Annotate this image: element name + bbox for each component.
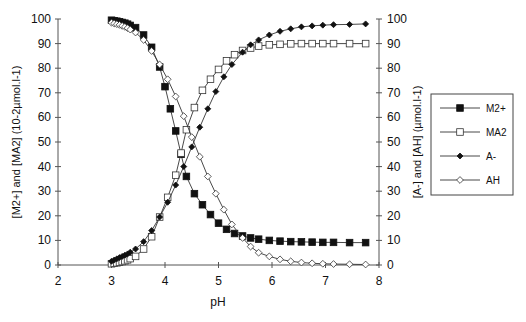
open-diamond-marker [266,253,273,260]
filled-square-marker [277,238,284,245]
filled-square-marker [199,201,206,208]
filled-square-marker [183,173,190,180]
open-square-marker [287,41,294,48]
filled-diamond-marker [197,124,203,130]
filled-diamond-marker [277,28,283,34]
y-tick-label-left: 10 [38,233,52,247]
filled-diamond-marker [256,37,262,43]
series-line [112,20,366,242]
y-tick-label-left: 30 [38,184,52,198]
open-square-marker [215,66,222,73]
filled-square-marker [215,220,222,227]
filled-diamond-marker [309,23,315,29]
filled-square-marker [298,239,305,246]
open-diamond-marker [220,206,227,213]
y-tick-label-right: 60 [387,110,401,124]
filled-diamond-marker [320,22,326,28]
filled-diamond-marker [331,22,337,28]
open-square-marker [132,253,139,260]
filled-square-marker [162,83,169,90]
y-tick-label-left: 80 [38,61,52,75]
open-diamond-marker [164,76,171,83]
x-axis-label: pH [210,295,225,309]
series-layer [108,17,369,268]
filled-square-marker [346,239,353,246]
open-diamond-marker [188,134,195,141]
filled-diamond-marker [213,89,219,95]
open-diamond-marker [212,190,219,197]
open-diamond-marker [362,261,369,268]
open-diamond-marker [287,258,294,265]
y-tick-label-right: 10 [387,233,401,247]
open-diamond-marker [172,93,179,100]
filled-square-marker [330,239,337,246]
y-tick-label-left: 100 [31,12,51,26]
legend-label: AH [486,175,500,186]
open-square-marker [266,42,273,49]
y-tick-label-left: 0 [44,258,51,272]
open-square-marker [309,40,316,47]
filled-diamond-marker [363,21,369,27]
y-tick-label-right: 40 [387,160,401,174]
open-square-marker [172,172,179,179]
filled-square-marker [191,190,198,197]
filled-diamond-marker [221,74,227,80]
open-square-marker [362,40,369,47]
legend-label: A- [486,151,496,162]
filled-square-marker [309,239,316,246]
filled-diamond-marker [181,164,187,170]
x-tick-label: 8 [376,274,383,288]
filled-square-marker [207,211,214,218]
y-tick-label-left: 60 [38,110,52,124]
open-diamond-marker [204,173,211,180]
filled-square-marker [172,128,179,135]
filled-diamond-marker [189,144,195,150]
filled-diamond-marker [347,21,353,27]
open-diamond-marker [330,261,337,268]
filled-square-marker [255,236,262,243]
filled-diamond-marker [298,24,304,30]
y-tick-label-left: 90 [38,37,52,51]
titration-chart: 2345678010203040506070809010001020304050… [0,0,526,322]
x-tick-label: 7 [322,274,329,288]
y-tick-label-left: 20 [38,209,52,223]
open-square-marker [178,150,185,157]
open-square-marker [191,104,198,111]
series-line [112,24,366,261]
open-diamond-marker [309,260,316,267]
series-a- [109,21,369,264]
series-line [112,23,366,265]
open-square-marker [231,51,238,58]
legend-label: M2+ [486,103,506,114]
y-tick-label-right: 90 [387,37,401,51]
x-tick-label: 6 [269,274,276,288]
legend: M2+MA2A-AH [431,94,513,195]
open-square-marker [298,40,305,47]
open-diamond-marker [196,153,203,160]
filled-square-marker [247,235,254,242]
filled-square-marker [266,237,273,244]
filled-square-marker [167,105,174,112]
filled-square-marker [457,105,464,112]
open-square-marker [207,76,214,83]
y-tick-label-right: 100 [387,12,407,26]
open-square-marker [199,87,206,94]
y-tick-label-right: 30 [387,184,401,198]
series-m2- [108,17,369,246]
open-diamond-marker [346,261,353,268]
filled-square-marker [362,239,369,246]
filled-diamond-marker [288,26,294,32]
x-tick-label: 2 [55,274,62,288]
y-tick-label-left: 40 [38,160,52,174]
y-tick-label-left: 50 [38,135,52,149]
open-square-marker [277,41,284,48]
open-diamond-marker [180,113,187,120]
y-tick-label-right: 20 [387,209,401,223]
x-tick-label: 4 [162,274,169,288]
filled-diamond-marker [266,32,272,38]
filled-square-marker [287,238,294,245]
open-square-marker [255,43,262,50]
filled-diamond-marker [205,106,211,112]
open-square-marker [140,246,147,253]
open-diamond-marker [277,256,284,263]
